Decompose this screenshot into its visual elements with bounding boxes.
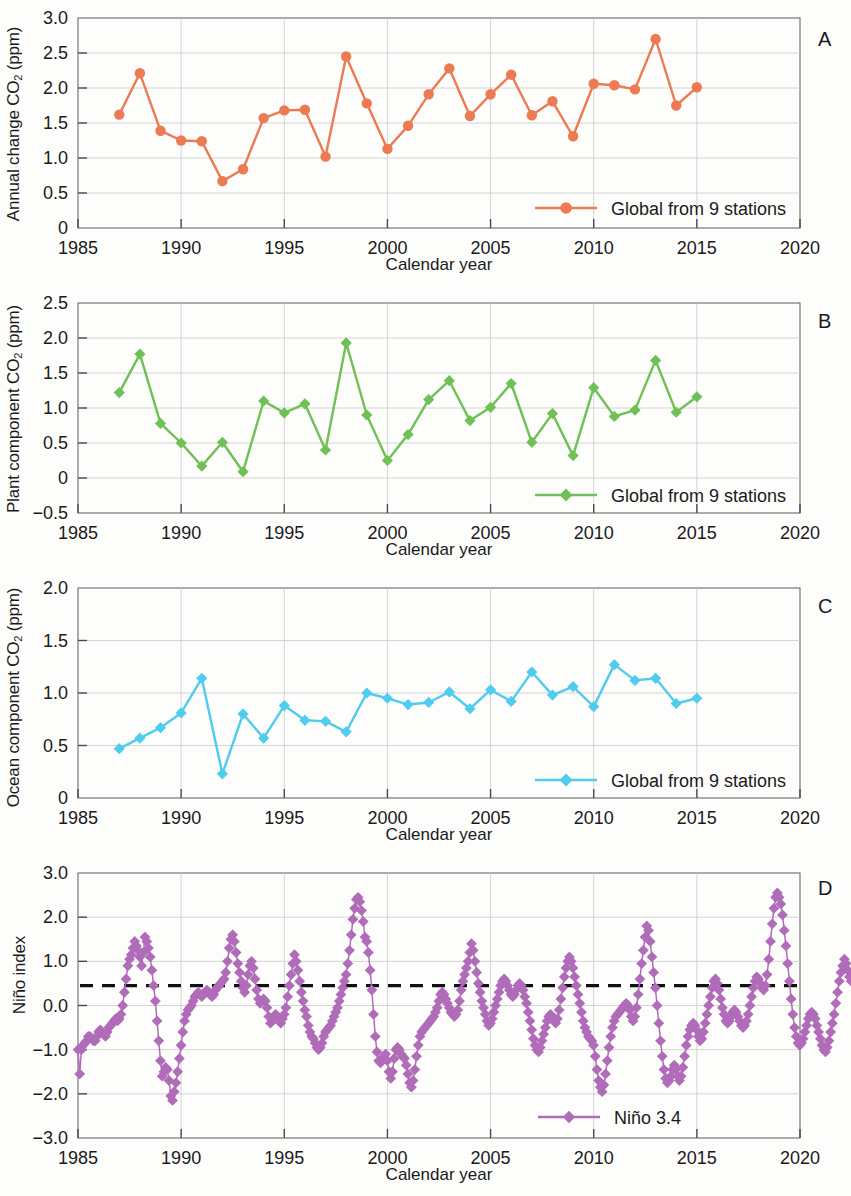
svg-text:−3.0: −3.0 — [32, 1128, 68, 1148]
svg-text:1.5: 1.5 — [43, 113, 68, 133]
svg-text:2.0: 2.0 — [43, 328, 68, 348]
panel-b: Plant component CO2 (ppm) −0.500.51.01.5… — [0, 285, 851, 570]
svg-text:0.5: 0.5 — [43, 183, 68, 203]
panel-c-letter: C — [818, 595, 832, 618]
panel-c-plot: 00.51.01.52.0198519901995200020052010201… — [0, 570, 851, 855]
panel-b-ylabel: Plant component CO2 (ppm) — [4, 285, 24, 533]
svg-text:1.0: 1.0 — [43, 683, 68, 703]
svg-text:1.0: 1.0 — [43, 398, 68, 418]
panel-d: Niño index −3.0−2.0−1.00.01.02.03.019851… — [0, 855, 851, 1196]
panel-a-ylabel: Annual change CO2 (ppm) — [4, 0, 24, 248]
panel-d-ylabel: Niño index — [10, 875, 30, 1075]
svg-text:2.5: 2.5 — [43, 293, 68, 313]
panel-a-xlabel: Calendar year — [78, 255, 800, 275]
svg-text:0.0: 0.0 — [43, 996, 68, 1016]
svg-text:Global from 9 stations: Global from 9 stations — [611, 771, 786, 791]
svg-text:2.0: 2.0 — [43, 907, 68, 927]
svg-text:−0.5: −0.5 — [32, 503, 68, 523]
panel-a-plot: 00.51.01.52.02.53.0198519901995200020052… — [0, 0, 851, 285]
svg-text:2.5: 2.5 — [43, 43, 68, 63]
svg-text:Global from 9 stations: Global from 9 stations — [611, 199, 786, 219]
svg-text:1.5: 1.5 — [43, 631, 68, 651]
svg-text:2.0: 2.0 — [43, 578, 68, 598]
panel-a-letter: A — [818, 28, 831, 51]
panel-c-xlabel: Calendar year — [78, 825, 800, 845]
panel-d-plot: −3.0−2.0−1.00.01.02.03.01985199019952000… — [0, 855, 851, 1196]
svg-text:1.5: 1.5 — [43, 363, 68, 383]
panel-d-xlabel: Calendar year — [78, 1165, 800, 1185]
svg-text:3.0: 3.0 — [43, 863, 68, 883]
panel-b-xlabel: Calendar year — [78, 540, 800, 560]
svg-text:2.0: 2.0 — [43, 78, 68, 98]
svg-text:0: 0 — [58, 218, 68, 238]
panel-c: Ocean component CO2 (ppm) 00.51.01.52.01… — [0, 570, 851, 855]
svg-text:0.5: 0.5 — [43, 736, 68, 756]
panel-c-ylabel: Ocean component CO2 (ppm) — [4, 570, 24, 825]
svg-text:Niño 3.4: Niño 3.4 — [614, 1108, 681, 1128]
svg-text:1.0: 1.0 — [43, 951, 68, 971]
svg-text:0: 0 — [58, 468, 68, 488]
panel-b-letter: B — [818, 310, 831, 333]
svg-text:3.0: 3.0 — [43, 8, 68, 28]
svg-text:−2.0: −2.0 — [32, 1084, 68, 1104]
svg-text:Global from 9 stations: Global from 9 stations — [611, 486, 786, 506]
panel-a: Annual change CO2 (ppm) 00.51.01.52.02.5… — [0, 0, 851, 285]
svg-text:−1.0: −1.0 — [32, 1040, 68, 1060]
svg-text:1.0: 1.0 — [43, 148, 68, 168]
figure-root: Annual change CO2 (ppm) 00.51.01.52.02.5… — [0, 0, 851, 1196]
panel-b-plot: −0.500.51.01.52.02.519851990199520002005… — [0, 285, 851, 570]
panel-d-letter: D — [818, 877, 832, 900]
svg-text:0: 0 — [58, 788, 68, 808]
svg-text:0.5: 0.5 — [43, 433, 68, 453]
